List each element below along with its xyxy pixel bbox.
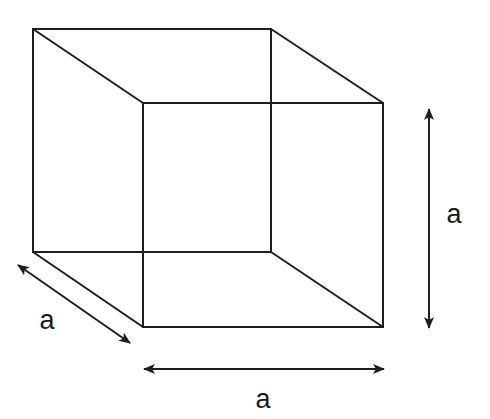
- depth-dimension-arrow: [18, 265, 130, 343]
- depth-label: a: [39, 307, 54, 334]
- cube-edge-bottom-right: [271, 252, 383, 327]
- width-label: a: [255, 386, 270, 413]
- cube-drawing: [0, 0, 490, 419]
- cube-back-face: [33, 29, 271, 252]
- cube-front-face: [143, 103, 383, 327]
- cube-edge-top-left: [33, 29, 143, 103]
- height-label: a: [446, 201, 461, 228]
- cube-edge-top-right: [271, 29, 383, 103]
- cube-diagram: a a a: [0, 0, 490, 419]
